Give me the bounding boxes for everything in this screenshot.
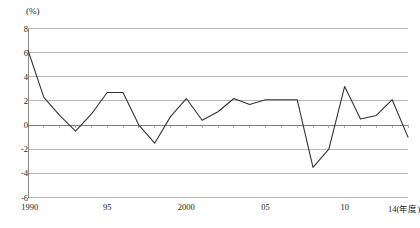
y-axis-tick-label: 0 [10,120,28,130]
y-axis-tick-label: 4 [10,72,28,82]
x-axis-tick-label: 2000 [178,202,195,212]
y-axis-tick-label: -6 [10,193,28,203]
data-series-layer [28,50,408,167]
data-line [28,50,408,167]
gridlines [28,29,408,198]
y-axis-tick-label: -4 [10,168,28,178]
y-axis-tick-label: 6 [10,48,28,58]
y-axis-unit-label: (%) [26,6,40,16]
y-axis-tick-label: -2 [10,144,28,154]
x-axis-tick-label: 10 [340,202,349,212]
x-axis-tick-label: 05 [261,202,270,212]
y-axis-tick-label: 2 [10,96,28,106]
y-axis-tick-label: 8 [10,24,28,34]
x-axis-tick-label: 14(年度) [388,202,420,214]
x-axis-tick-label: 1990 [21,202,38,212]
x-axis-tick-label: 95 [103,202,112,212]
